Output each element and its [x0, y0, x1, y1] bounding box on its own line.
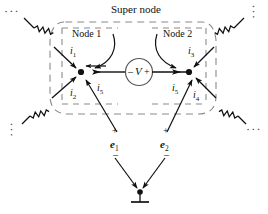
current-i1-sub: 1: [73, 51, 77, 59]
circuit-canvas: [0, 0, 268, 214]
ground-symbol-icon: [131, 189, 149, 202]
current-label-i1: i1: [70, 46, 76, 59]
node2-label: Node 2: [163, 29, 192, 39]
branch-lower-left: [22, 77, 76, 124]
node1-pointer-arrow: [95, 34, 115, 68]
current-label-i3: i3: [188, 46, 194, 59]
e2-line: [167, 80, 192, 132]
resistor-lower-left: [30, 110, 50, 119]
branch-lower-right: [196, 78, 246, 124]
current-label-i2: i2: [70, 88, 76, 101]
branch-source-right: [152, 69, 186, 75]
current-label-i5-left: i5: [97, 83, 103, 96]
current-i3-sub: 3: [191, 51, 195, 59]
node1-label: Node 1: [72, 29, 101, 39]
current-label-i4: i4: [193, 90, 199, 103]
e2-minus-sign: –: [164, 150, 169, 160]
source-symbol: V: [135, 66, 142, 77]
current-label-i5-right: i5: [172, 83, 178, 96]
e1-minus-sign: –: [113, 150, 118, 160]
branch-upper-right: [194, 18, 244, 67]
ground-lead-left: [115, 158, 137, 188]
e1-plus-sign: +: [112, 126, 118, 136]
ground-lead-right: [143, 158, 165, 188]
resistor-upper-left: [34, 26, 54, 35]
branch-source-left: [92, 69, 126, 75]
resistor-lower-right: [218, 110, 238, 119]
node1-dot: [78, 69, 84, 75]
node2-pointer-arrow: [156, 34, 176, 68]
source-plus-sign: +: [144, 67, 150, 77]
current-i5-right-sub: 5: [175, 88, 179, 96]
resistor-upper-right: [214, 26, 234, 35]
current-i5-left-sub: 5: [100, 88, 104, 96]
supernode-label: Super node: [111, 4, 161, 15]
source-minus-sign: –: [128, 67, 133, 77]
current-i2-sub: 2: [73, 93, 77, 101]
node2-dot: [186, 69, 192, 75]
current-i4-sub: 4: [196, 95, 200, 103]
e2-plus-sign: +: [163, 126, 169, 136]
circuit-diagram: Super node Node 1 Node 2 i1 i2 i3 i4 i5 …: [0, 0, 268, 214]
